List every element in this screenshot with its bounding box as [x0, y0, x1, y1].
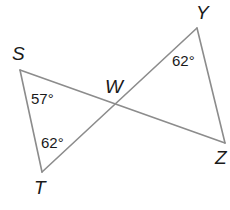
vertex-label-z: Z [215, 148, 227, 167]
angle-label-y: 62° [172, 53, 195, 68]
vertex-label-w: W [105, 77, 123, 96]
vertex-label-t: T [34, 178, 46, 197]
angle-label-s: 57° [31, 91, 54, 106]
segment-yz [197, 28, 225, 143]
segment-st [20, 70, 42, 172]
vertex-label-s: S [12, 44, 25, 63]
segment-ty [42, 28, 197, 172]
angle-label-t: 62° [41, 135, 64, 150]
vertex-label-y: Y [196, 3, 209, 22]
